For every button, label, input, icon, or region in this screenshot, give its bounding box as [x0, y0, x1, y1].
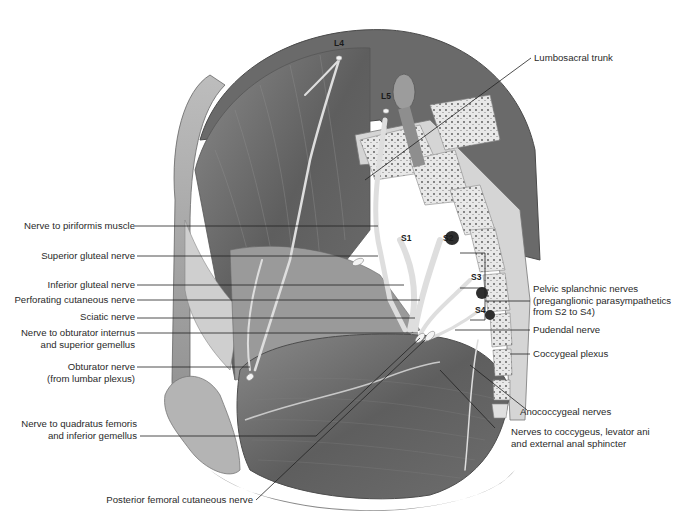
segment-label-l5: L5	[381, 91, 391, 101]
label-coccygeal-plexus: Coccygeal plexus	[533, 348, 608, 360]
label-perforating-cutaneous-nerve: Perforating cutaneous nerve	[14, 294, 135, 306]
label-pelvic-splanchnic-nerves: Pelvic splanchnic nerves (preganglionic …	[533, 283, 671, 318]
label-line-2: (preganglionic parasympathetics	[533, 295, 671, 307]
label-sciatic-nerve: Sciatic nerve	[80, 311, 135, 323]
label-line-1: Nerves to coccygeus, levator ani	[511, 426, 650, 438]
segment-label-s3: S3	[471, 272, 481, 282]
label-line-2: and superior gemellus	[21, 339, 135, 351]
label-lumbosacral-trunk: Lumbosacral trunk	[534, 52, 613, 64]
label-nerve-to-obturator-internus: Nerve to obturator internus and superior…	[21, 327, 135, 350]
label-line-2: (from lumbar plexus)	[47, 373, 135, 385]
label-posterior-femoral-cutaneous-nerve: Posterior femoral cutaneous nerve	[106, 494, 253, 506]
label-line-3: from S2 to S4)	[533, 306, 671, 318]
segment-label-s4: S4	[475, 305, 485, 315]
segment-label-s2: S2	[443, 233, 453, 243]
label-obturator-nerve: Obturator nerve (from lumbar plexus)	[47, 361, 135, 384]
segment-label-l4: L4	[334, 38, 344, 48]
label-nerves-to-coccygeus: Nerves to coccygeus, levator ani and ext…	[511, 426, 650, 449]
label-line-1: Pelvic splanchnic nerves	[533, 283, 671, 295]
label-nerve-to-piriformis: Nerve to piriformis muscle	[24, 220, 135, 232]
l5-root	[383, 109, 389, 114]
label-inferior-gluteal-nerve: Inferior gluteal nerve	[48, 279, 135, 291]
label-line-1: Obturator nerve	[47, 361, 135, 373]
label-line-1: Nerve to obturator internus	[21, 327, 135, 339]
label-pudendal-nerve: Pudendal nerve	[533, 324, 600, 336]
l4-root	[336, 56, 342, 61]
ischial-tuberosity	[165, 376, 240, 474]
segment-label-s1: S1	[401, 233, 411, 243]
label-anococcygeal-nerves: Anococcygeal nerves	[520, 406, 611, 418]
label-line-2: and inferior gemellus	[21, 430, 137, 442]
label-nerve-to-quadratus-femoris: Nerve to quadratus femoris and inferior …	[21, 418, 137, 441]
label-line-1: Nerve to quadratus femoris	[21, 418, 137, 430]
label-superior-gluteal-nerve: Superior gluteal nerve	[41, 250, 135, 262]
label-line-2: and external anal sphincter	[511, 438, 650, 450]
anatomy-figure: L4 L5 S1 S2 S3 S4 Nerve to piriformis mu…	[0, 0, 686, 519]
